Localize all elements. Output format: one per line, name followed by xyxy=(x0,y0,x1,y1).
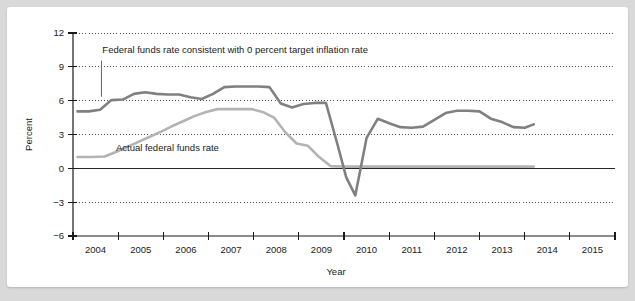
gridlines-group xyxy=(73,33,615,202)
x-tick-label: 2011 xyxy=(402,244,422,255)
y-tick-label: 12 xyxy=(53,27,64,38)
y-tick-label: 9 xyxy=(59,61,64,72)
x-tick-label: 2004 xyxy=(85,244,106,255)
x-tick-label: 2008 xyxy=(266,244,287,255)
x-tick-label: 2013 xyxy=(492,244,513,255)
annotations-group: Federal funds rate consistent with 0 per… xyxy=(101,44,368,153)
y-tick-label: −6 xyxy=(53,230,64,241)
y-tick-label: 6 xyxy=(59,95,64,106)
y-tick-label: −3 xyxy=(53,197,64,208)
series-line xyxy=(78,109,534,167)
y-tick-label: 3 xyxy=(59,129,64,140)
chart-figure: −6−3036912 20042005200620072008200920102… xyxy=(7,7,628,287)
y-tick-label: 0 xyxy=(59,163,64,174)
x-tick-label: 2014 xyxy=(537,244,558,255)
x-tick-label: 2006 xyxy=(175,244,196,255)
annotation-actual-rate: Actual federal funds rate xyxy=(116,142,219,153)
y-axis-label: Percent xyxy=(23,118,34,151)
x-tick-label: 2009 xyxy=(311,244,332,255)
line-chart: −6−3036912 20042005200620072008200920102… xyxy=(7,7,628,287)
x-tick-label: 2005 xyxy=(130,244,151,255)
annotation-consistent-rate: Federal funds rate consistent with 0 per… xyxy=(102,44,368,55)
x-tick-label: 2010 xyxy=(356,244,377,255)
x-tick-label: 2007 xyxy=(221,244,242,255)
x-tick-label: 2012 xyxy=(446,244,467,255)
x-tick-label: 2015 xyxy=(582,244,603,255)
x-axis-label: Year xyxy=(326,266,345,277)
